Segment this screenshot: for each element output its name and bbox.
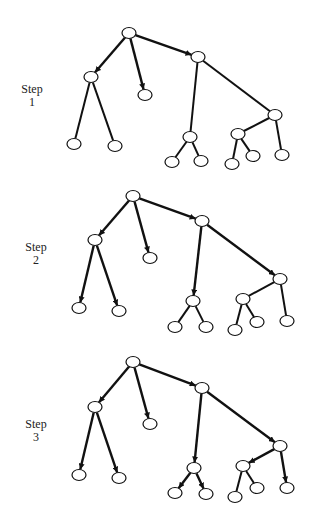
tree-edge	[191, 62, 198, 131]
directed-edge-arrow	[95, 38, 125, 73]
tree-node-d1	[165, 157, 179, 168]
tree-node-d2	[194, 156, 208, 167]
directed-edge-arrow	[196, 473, 203, 489]
tree-edge	[241, 139, 249, 151]
tree-node-f1	[228, 325, 242, 336]
directed-edge-arrow	[139, 198, 195, 218]
tree-node-root	[126, 191, 140, 202]
directed-edge-arrow	[99, 367, 129, 403]
tree-node-l1	[67, 139, 81, 150]
tree-node-f2	[250, 483, 264, 494]
tree-edge	[233, 139, 237, 158]
tree-node-f	[231, 129, 245, 140]
tree-node-l1	[72, 470, 86, 481]
directed-edge-arrow	[80, 245, 93, 302]
tree-node-l	[88, 402, 102, 413]
tree-node-d1	[168, 322, 182, 333]
tree-node-e	[273, 274, 287, 285]
step-label-number: 2	[18, 254, 54, 267]
tree-node-m	[143, 253, 157, 264]
tree-edge	[281, 284, 286, 315]
tree-edge	[75, 82, 89, 138]
tree-edge	[192, 142, 198, 156]
tree-edge	[246, 304, 254, 317]
tree-node-f	[236, 461, 250, 472]
tree-node-root	[126, 357, 140, 368]
tree-node-d2	[199, 489, 213, 500]
tree-node-d	[186, 296, 200, 307]
step-label-number: 1	[14, 96, 50, 109]
step-2-label: Step2	[18, 241, 54, 267]
tree-edge	[236, 304, 241, 324]
tree-node-l2	[112, 473, 126, 484]
directed-edge-arrow	[97, 245, 117, 305]
tree-node-root	[122, 28, 136, 39]
tree-edge	[236, 471, 241, 491]
directed-edge-arrow	[195, 393, 202, 462]
step-3-label: Step3	[18, 418, 54, 444]
tree-node-f2	[250, 317, 264, 328]
tree-node-l	[84, 72, 98, 83]
tree-edge	[249, 282, 274, 296]
tree-edge	[175, 142, 186, 157]
tree-edge	[178, 306, 189, 322]
directed-edge-arrow	[80, 412, 93, 469]
tree-node-l	[88, 235, 102, 246]
directed-edge-arrow	[135, 35, 191, 55]
tree-edge	[244, 118, 269, 131]
tree-edge	[276, 120, 281, 149]
tree-node-b	[191, 52, 205, 63]
step-label-number: 3	[18, 431, 54, 444]
tree-edge	[246, 471, 254, 483]
tree-edge	[93, 82, 113, 140]
tree-node-m	[143, 419, 157, 430]
tree-node-e	[273, 441, 287, 452]
tree-node-d2	[199, 322, 213, 333]
step-1-tree	[67, 28, 289, 170]
directed-edge-arrow	[249, 449, 274, 463]
tree-node-f2	[246, 151, 260, 162]
tree-node-d	[187, 463, 201, 474]
tree-node-b	[195, 383, 209, 394]
directed-edge-arrow	[130, 38, 143, 89]
directed-edge-arrow	[139, 364, 195, 385]
directed-edge-arrow	[194, 226, 202, 295]
directed-edge-arrow	[179, 473, 191, 489]
directed-edge-arrow	[281, 451, 286, 482]
step-1-label: Step1	[14, 83, 50, 109]
step-2-tree	[72, 191, 294, 336]
tree-node-b	[195, 216, 209, 227]
tree-node-l2	[112, 306, 126, 317]
tree-node-e	[268, 110, 282, 121]
step-3-tree	[72, 357, 294, 503]
directed-edge-arrow	[207, 392, 275, 442]
directed-edge-arrow	[207, 225, 275, 275]
tree-node-f1	[228, 492, 242, 503]
tree-node-e1	[275, 150, 289, 161]
tree-edge	[196, 306, 204, 322]
tree-node-m	[138, 90, 152, 101]
tree-node-f	[236, 294, 250, 305]
tree-node-d1	[168, 488, 182, 499]
tree-edge	[203, 61, 270, 111]
tree-node-d	[183, 132, 197, 143]
steps-layer	[67, 28, 294, 503]
directed-edge-arrow	[97, 412, 117, 472]
directed-edge-arrow	[134, 367, 148, 418]
tree-node-f1	[225, 159, 239, 170]
directed-edge-arrow	[99, 201, 129, 236]
tree-node-l2	[108, 141, 122, 152]
tree-node-e1	[280, 483, 294, 494]
directed-edge-arrow	[134, 201, 148, 252]
tree-node-e1	[280, 316, 294, 327]
tree-node-l1	[72, 303, 86, 314]
